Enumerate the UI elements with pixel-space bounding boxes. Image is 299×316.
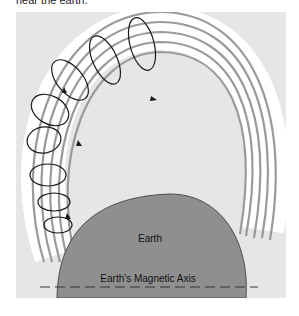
magnetic-field-diagram: Earth Earth's Magnetic Axis [0,0,299,316]
earth-label: Earth [138,233,162,244]
axis-label: Earth's Magnetic Axis [100,273,195,284]
